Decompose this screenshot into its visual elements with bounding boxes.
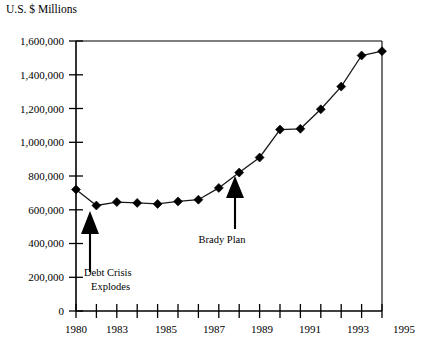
data-point-1994 [357, 51, 366, 60]
y-tick-label-1400000: 1,400,000 [20, 69, 65, 81]
debt-crisis-label-line1: Debt Crisis [84, 267, 132, 278]
y-tick-label-1000000: 1,000,000 [20, 136, 65, 148]
x-tick-label-1985: 1985 [155, 323, 178, 335]
x-tick-label-1989: 1989 [251, 323, 274, 335]
x-tick-label-1983: 1983 [106, 323, 129, 335]
data-point-1995 [378, 47, 387, 56]
y-tick-label-1600000: 1,600,000 [20, 35, 65, 47]
x-tick-label-1993: 1993 [347, 323, 370, 335]
y-axis-title: U.S. $ Millions [6, 3, 77, 15]
annotation-debt-crisis: Debt Crisis Explodes [81, 211, 132, 292]
data-point-1986 [194, 195, 203, 204]
data-point-1984 [153, 199, 162, 208]
y-tick-label-800000: 800,000 [28, 170, 64, 182]
data-point-1983 [133, 198, 142, 207]
x-axis-tick-labels: 1980 1983 1985 1987 1989 1991 1993 1995 [65, 323, 416, 335]
brady-plan-arrow-head-icon [226, 176, 244, 198]
y-tick-label-600000: 600,000 [28, 204, 64, 216]
data-point-1985 [174, 197, 183, 206]
brady-plan-label: Brady Plan [199, 234, 247, 245]
line-chart: U.S. $ Millions 0 200,000 400,000 600,00… [0, 0, 430, 346]
y-tick-label-200000: 200,000 [28, 271, 64, 283]
data-point-1990 [276, 125, 285, 134]
debt-crisis-label-line2: Explodes [91, 281, 130, 292]
y-tick-label-0: 0 [59, 305, 65, 317]
y-tick-label-400000: 400,000 [28, 237, 64, 249]
x-tick-label-1987: 1987 [203, 323, 226, 335]
y-axis-tick-labels: 0 200,000 400,000 600,000 800,000 1,000,… [20, 35, 65, 317]
data-point-1989 [255, 153, 264, 162]
data-markers [72, 47, 387, 210]
debt-crisis-arrow-head-icon [81, 211, 99, 234]
data-series-line [76, 51, 382, 205]
chart-container: U.S. $ Millions 0 200,000 400,000 600,00… [0, 0, 430, 346]
data-point-1982 [112, 198, 121, 207]
x-tick-label-1995: 1995 [393, 323, 416, 335]
x-tick-label-1991: 1991 [299, 323, 321, 335]
x-tick-label-1980: 1980 [65, 323, 88, 335]
annotation-brady-plan: Brady Plan [199, 176, 247, 245]
y-tick-label-1200000: 1,200,000 [20, 103, 65, 115]
